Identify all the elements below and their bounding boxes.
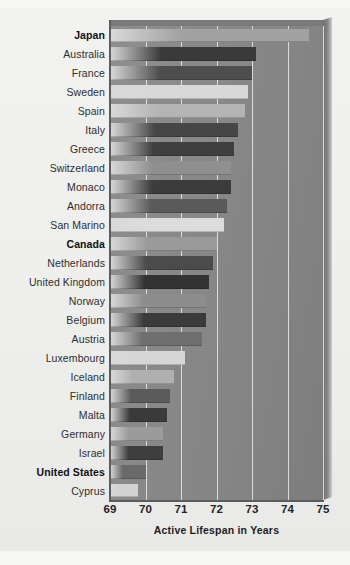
bar-fill <box>110 370 174 384</box>
x-tick-69: 69 <box>104 503 117 515</box>
bar-monaco[interactable] <box>110 180 231 194</box>
bar-row[interactable] <box>110 367 323 386</box>
category-label-germany: Germany <box>0 428 105 440</box>
x-axis-tick-labels: 69707172737475 <box>0 503 350 519</box>
category-label-sweden: Sweden <box>0 86 105 98</box>
bar-norway[interactable] <box>110 294 206 308</box>
bar-switzerland[interactable] <box>110 161 231 175</box>
bar-row[interactable] <box>110 216 323 235</box>
category-label-united-kingdom: United Kingdom <box>0 276 105 288</box>
bar-row[interactable] <box>110 386 323 405</box>
y-axis-line <box>109 20 111 501</box>
bar-row[interactable] <box>110 197 323 216</box>
bar-fill <box>110 47 256 61</box>
category-label-united-states: United States <box>0 466 105 478</box>
bar-fill <box>110 123 238 137</box>
category-label-israel: Israel <box>0 447 105 459</box>
category-label-malta: Malta <box>0 409 105 421</box>
bar-luxembourg[interactable] <box>110 351 185 365</box>
bar-row[interactable] <box>110 254 323 273</box>
bar-australia[interactable] <box>110 47 256 61</box>
x-tick-73: 73 <box>246 503 259 515</box>
bar-row[interactable] <box>110 424 323 443</box>
bar-row[interactable] <box>110 64 323 83</box>
bar-row[interactable] <box>110 140 323 159</box>
category-label-australia: Australia <box>0 48 105 60</box>
bar-fill <box>110 294 206 308</box>
bar-united-states[interactable] <box>110 465 146 479</box>
bar-germany[interactable] <box>110 427 163 441</box>
category-label-andorra: Andorra <box>0 200 105 212</box>
category-label-greece: Greece <box>0 143 105 155</box>
bar-row[interactable] <box>110 26 323 45</box>
bar-row[interactable] <box>110 178 323 197</box>
bar-fill <box>110 446 163 460</box>
bar-fill <box>110 313 206 327</box>
bottom-margin <box>0 551 350 565</box>
bar-row[interactable] <box>110 462 323 481</box>
bar-finland[interactable] <box>110 389 170 403</box>
bar-row[interactable] <box>110 329 323 348</box>
bar-san-marino[interactable] <box>110 218 224 232</box>
category-axis-labels: JapanAustraliaFranceSwedenSpainItalyGree… <box>0 26 105 500</box>
gridline-75 <box>323 26 324 500</box>
bar-fill <box>110 332 202 346</box>
bar-fill <box>110 275 209 289</box>
bar-row[interactable] <box>110 443 323 462</box>
bar-chart-plot-area <box>110 26 323 500</box>
bar-row[interactable] <box>110 310 323 329</box>
bar-austria[interactable] <box>110 332 202 346</box>
bar-belgium[interactable] <box>110 313 206 327</box>
bar-japan[interactable] <box>110 29 309 43</box>
bar-fill <box>110 29 309 43</box>
bar-row[interactable] <box>110 272 323 291</box>
bar-israel[interactable] <box>110 446 163 460</box>
bar-france[interactable] <box>110 66 252 80</box>
bar-spain[interactable] <box>110 104 245 118</box>
bar-row[interactable] <box>110 481 323 500</box>
category-label-japan: Japan <box>0 29 105 41</box>
plot-3d-right-face <box>323 17 332 500</box>
bar-fill <box>110 218 224 232</box>
category-label-france: France <box>0 67 105 79</box>
bar-fill <box>110 142 234 156</box>
category-label-finland: Finland <box>0 390 105 402</box>
bar-netherlands[interactable] <box>110 256 213 270</box>
bar-fill <box>110 465 146 479</box>
bar-row[interactable] <box>110 291 323 310</box>
bar-row[interactable] <box>110 83 323 102</box>
x-tick-70: 70 <box>139 503 152 515</box>
bar-iceland[interactable] <box>110 370 174 384</box>
bar-fill <box>110 256 213 270</box>
bar-sweden[interactable] <box>110 85 248 99</box>
bar-row[interactable] <box>110 348 323 367</box>
bar-row[interactable] <box>110 159 323 178</box>
x-axis-title: Active Lifespan in Years <box>110 524 323 536</box>
bar-fill <box>110 427 163 441</box>
bar-row[interactable] <box>110 102 323 121</box>
bar-italy[interactable] <box>110 123 238 137</box>
bar-cyprus[interactable] <box>110 484 138 498</box>
bar-malta[interactable] <box>110 408 167 422</box>
bar-fill <box>110 104 245 118</box>
bar-fill <box>110 180 231 194</box>
bar-canada[interactable] <box>110 237 217 251</box>
bar-andorra[interactable] <box>110 199 227 213</box>
bar-fill <box>110 199 227 213</box>
bar-united-kingdom[interactable] <box>110 275 209 289</box>
x-tick-74: 74 <box>281 503 294 515</box>
category-label-iceland: Iceland <box>0 371 105 383</box>
bar-row[interactable] <box>110 121 323 140</box>
bar-row[interactable] <box>110 405 323 424</box>
category-label-san-marino: San Marino <box>0 219 105 231</box>
bar-fill <box>110 408 167 422</box>
bar-fill <box>110 389 170 403</box>
category-label-luxembourg: Luxembourg <box>0 352 105 364</box>
category-label-canada: Canada <box>0 238 105 250</box>
category-label-belgium: Belgium <box>0 314 105 326</box>
chart-page: JapanAustraliaFranceSwedenSpainItalyGree… <box>0 0 350 565</box>
bar-fill <box>110 161 231 175</box>
bar-row[interactable] <box>110 45 323 64</box>
bar-greece[interactable] <box>110 142 234 156</box>
bar-row[interactable] <box>110 235 323 254</box>
